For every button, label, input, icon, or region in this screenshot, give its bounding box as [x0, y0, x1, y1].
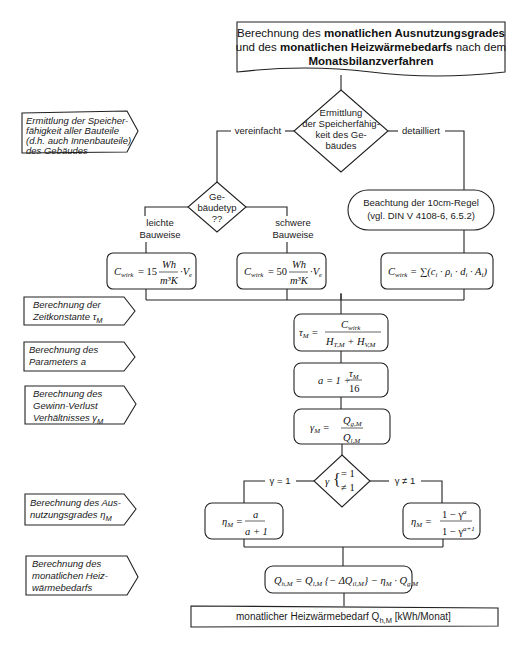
svg-text:(vgl. DIN V 4108-6, 6.5.2): (vgl. DIN V 4108-6, 6.5.2)	[367, 210, 475, 221]
svg-text:= 15: = 15	[138, 266, 157, 277]
svg-text:Wh: Wh	[292, 259, 306, 270]
svg-text:m³K: m³K	[290, 275, 309, 286]
formula-tau: τM = Cwirk HT,M + HV,M	[294, 314, 388, 351]
svg-text:des Gebäudes: des Gebäudes	[26, 145, 88, 156]
svg-text:monatlichen Heiz-: monatlichen Heiz-	[32, 570, 108, 581]
result-sub: h,M	[379, 616, 392, 625]
svg-text:a + 1: a + 1	[245, 526, 268, 537]
title-line3: Monatsbilanzverfahren	[308, 55, 433, 67]
title-line1-a: Berechnung des	[237, 27, 324, 39]
svg-text:Ge-: Ge-	[209, 191, 225, 202]
title-box: Berechnung des monatlichen Ausnutzungsgr…	[236, 22, 506, 76]
title-line1-b: monatlichen Ausnutzungsgrades	[324, 27, 505, 39]
svg-text:Berechnung des monatlichen Aus: Berechnung des monatlichen Ausnutzungsgr…	[237, 27, 505, 39]
svg-text:Berechnung des: Berechnung des	[33, 388, 102, 399]
svg-text:Ermittlung: Ermittlung	[320, 107, 363, 118]
svg-text:??: ??	[212, 213, 223, 224]
result-unit: [kWh/Monat]	[392, 611, 451, 622]
svg-text:16: 16	[349, 383, 360, 394]
svg-text:Berechnung des Aus-: Berechnung des Aus-	[30, 497, 121, 508]
svg-text:bäudes: bäudes	[325, 140, 356, 151]
formula-eta-eq1: ηM = a a + 1	[205, 503, 283, 539]
svg-text:a: a	[253, 509, 258, 520]
title-line2-a: und des	[236, 41, 280, 53]
formula-c-heavy: Cwirk = 50 Wh m³K ·Ve	[237, 253, 326, 289]
svg-text:m³K: m³K	[160, 275, 179, 286]
side-label-gamma: Berechnung des Gewinn-Verlust Verhältnis…	[25, 386, 136, 426]
svg-text:Parameters a: Parameters a	[29, 356, 86, 367]
decision-gamma: γ { = 1 ≠ 1	[314, 455, 370, 507]
formula-c-detail: Cwirk = ∑(ci · ρi · di · Ai)	[381, 253, 493, 289]
rule-note: Beachtung der 10cm-Regel (vgl. DIN V 410…	[348, 190, 494, 230]
branch-detailliert: detailliert	[402, 125, 440, 136]
side-label-storage: Ermittlung der Speicher- fähigkeit aller…	[22, 111, 138, 156]
svg-text:≠ 1: ≠ 1	[341, 482, 355, 493]
svg-text:{: {	[333, 471, 341, 488]
decision-building-type: Ge- bäudetyp ??	[188, 182, 246, 232]
result-text: monatlicher Heizwärmebedarf Q	[236, 611, 380, 622]
svg-text:bäudetyp: bäudetyp	[197, 202, 236, 213]
formula-a: a = 1 + τM 16	[294, 363, 388, 397]
decision-storage: Ermittlung der Speicherfähig- keit des G…	[294, 90, 388, 172]
formula-gamma: γM = Qg,M Ql,M	[294, 409, 390, 445]
svg-text:= 50: = 50	[268, 266, 287, 277]
formula-c-light: Cwirk = 15 Wh m³K ·Ve	[107, 253, 196, 289]
title-line2-c: nach dem	[452, 41, 506, 53]
side-label-eta: Berechnung des Aus- nutzungsgrades ηM	[25, 494, 136, 525]
svg-text:Wh: Wh	[162, 259, 176, 270]
svg-text:Berechnung des: Berechnung des	[32, 558, 101, 569]
branch-schwer-2: Bauweise	[272, 229, 313, 240]
svg-text:Beachtung der 10cm-Regel: Beachtung der 10cm-Regel	[363, 197, 479, 208]
svg-text:keit des Ge-: keit des Ge-	[315, 129, 366, 140]
side-label-tau: Berechnung der Zeitkonstante τM	[24, 297, 135, 325]
side-label-a: Berechnung des Parameters a	[24, 342, 135, 371]
formula-qh: Qh,M = Ql,M {− ΔQil,M} − ηM · Qg,M	[265, 566, 419, 593]
svg-text:Gewinn-Verlust: Gewinn-Verlust	[33, 400, 98, 411]
svg-text:Berechnung des: Berechnung des	[29, 344, 98, 355]
svg-text:und des monatlichen Heizwärmeb: und des monatlichen Heizwärmebedarfs nac…	[236, 41, 506, 53]
svg-text:Berechnung der: Berechnung der	[33, 299, 101, 310]
svg-text:= 1: = 1	[341, 468, 355, 479]
result-box: monatlicher Heizwärmebedarf Qh,M [kWh/Mo…	[191, 606, 498, 627]
branch-schwer-1: schwere	[275, 217, 310, 228]
side-label-qh: Berechnung des monatlichen Heiz- wärmebe…	[26, 556, 138, 595]
branch-leicht-1: leichte	[146, 217, 173, 228]
branch-vereinfacht: vereinfacht	[235, 125, 282, 136]
title-line2-b: monatlichen Heizwärmebedarfs	[280, 41, 453, 53]
flowchart: Berechnung des monatlichen Ausnutzungsgr…	[0, 0, 515, 648]
branch-gamma-neq-1: γ ≠ 1	[395, 475, 416, 486]
branch-gamma-eq-1: γ = 1	[270, 475, 291, 486]
svg-text:a = 1 +: a = 1 +	[318, 375, 351, 386]
svg-text:der Speicherfähig-: der Speicherfähig-	[302, 118, 380, 129]
branch-leicht-2: Bauweise	[139, 229, 180, 240]
formula-eta-neq1: ηM = 1 − γa 1 − γa+1	[403, 503, 480, 539]
svg-text:wärmebedarfs: wärmebedarfs	[32, 582, 92, 593]
